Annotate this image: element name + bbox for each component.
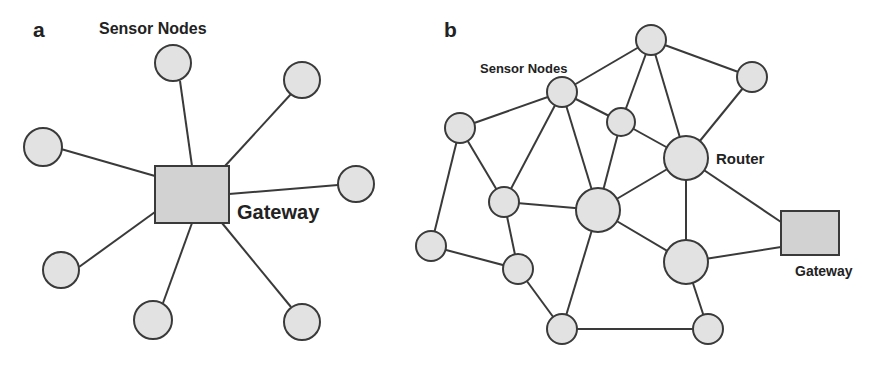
sensor-node — [284, 304, 320, 340]
panel-b-mesh-topology: b Sensor Nodes — [416, 18, 853, 344]
panel-b-sensor-nodes — [416, 25, 767, 344]
sensor-node — [737, 62, 767, 92]
sensor-node — [547, 314, 577, 344]
sensor-node — [693, 314, 723, 344]
panel-a-gateway — [155, 166, 229, 223]
panel-a-sensor-nodes-label: Sensor Nodes — [99, 20, 207, 37]
sensor-node — [338, 166, 374, 202]
panel-b-edges — [431, 40, 781, 329]
router-node — [576, 188, 620, 232]
panel-a-star-topology: a Sensor Nodes Gateway — [24, 18, 374, 340]
panel-b-router-label: Router — [716, 150, 764, 167]
panel-b-sensor-nodes-label: Sensor Nodes — [480, 61, 567, 76]
sensor-node — [43, 252, 79, 288]
router-node — [664, 136, 708, 180]
network-topology-diagram: a Sensor Nodes Gateway b Sensor Nodes — [0, 0, 893, 371]
sensor-node — [416, 231, 446, 261]
panel-b-label: b — [444, 18, 457, 41]
router-node — [664, 240, 708, 284]
sensor-node — [445, 113, 475, 143]
sensor-node — [547, 77, 577, 107]
sensor-node — [607, 108, 635, 136]
panel-a-gateway-label: Gateway — [237, 201, 320, 223]
sensor-node — [636, 25, 666, 55]
sensor-node — [24, 128, 62, 166]
panel-a-label: a — [33, 18, 45, 41]
panel-b-gateway-label: Gateway — [795, 263, 853, 279]
sensor-node — [503, 254, 533, 284]
sensor-node — [284, 62, 320, 98]
sensor-node — [489, 187, 519, 217]
sensor-node — [155, 45, 191, 81]
sensor-node — [134, 301, 172, 339]
panel-b-routers — [576, 136, 708, 284]
panel-b-gateway — [781, 211, 839, 255]
